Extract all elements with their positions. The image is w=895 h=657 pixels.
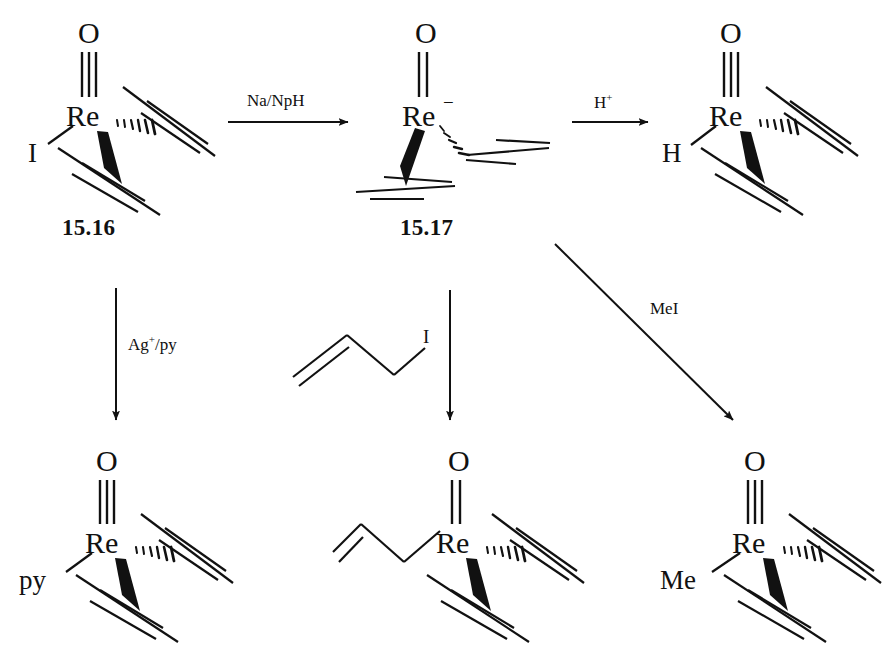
oxo-bond-methyl xyxy=(748,480,762,524)
hashed-wedge-allyl xyxy=(487,547,525,561)
silver-base: Ag xyxy=(128,335,149,354)
hashed-wedge-pyridine xyxy=(136,547,174,561)
compound-15-16-structure xyxy=(48,52,215,215)
alkyne-ligand-upper-pyridine xyxy=(141,514,233,583)
compound-pyridine-structure xyxy=(66,480,233,642)
alkyne-ligand-upper-15-16 xyxy=(123,87,215,156)
allyl-chain-bonds xyxy=(333,524,440,562)
oxo-label-15-17: O xyxy=(415,18,437,48)
arrow-methylation-line xyxy=(555,244,733,420)
metal-label-methyl: Re xyxy=(732,528,765,558)
iodide-label-15-16: I xyxy=(28,140,37,167)
compound-15-17-structure xyxy=(356,52,550,199)
reagent-label-methylation: MeI xyxy=(650,300,678,317)
methyl-label: Me xyxy=(660,567,696,594)
oxo-bond-pyridine xyxy=(100,480,114,524)
metal-label-15-16: Re xyxy=(66,101,99,131)
alkyne-ligand-upper-methyl xyxy=(789,514,881,583)
alkyne-ligand-upper-allyl xyxy=(492,514,584,583)
allyl-iodide-label: I xyxy=(423,327,429,346)
metal-label-pyridine: Re xyxy=(85,528,118,558)
anion-charge-15-17: − xyxy=(443,93,454,112)
compound-id-15-17: 15.17 xyxy=(400,216,453,239)
oxo-label-pyridine: O xyxy=(96,446,118,476)
metal-label-hydride: Re xyxy=(709,101,742,131)
hashed-wedge-15-17 xyxy=(440,126,469,155)
oxo-bond-hydride xyxy=(724,52,738,97)
hashed-wedge-15-16 xyxy=(117,120,155,134)
compound-methyl-structure xyxy=(712,480,881,642)
metal-label-allyl: Re xyxy=(436,528,469,558)
oxo-label-methyl: O xyxy=(744,446,766,476)
reagent-label-protonation: H+ xyxy=(594,92,613,111)
alkyne-ligand-right-15-17 xyxy=(466,140,550,164)
metal-label-15-17: Re xyxy=(402,101,435,131)
oxo-label-15-16: O xyxy=(78,18,100,48)
hydride-label: H xyxy=(662,140,682,167)
hashed-wedge-methyl xyxy=(784,547,822,561)
reagent-label-reduction: Na/NpH xyxy=(247,92,305,109)
oxo-label-allyl: O xyxy=(448,446,470,476)
solid-wedge-15-17 xyxy=(400,128,425,186)
hashed-wedge-hydride xyxy=(760,120,798,134)
protonation-superscript: + xyxy=(606,91,612,103)
silver-rest: /py xyxy=(155,335,177,354)
compound-id-15-16: 15.16 xyxy=(62,216,115,239)
compound-hydride-structure xyxy=(691,52,858,215)
oxo-bond-15-16 xyxy=(82,52,96,97)
pyridine-label: py xyxy=(19,567,46,594)
allyl-iodide-reagent-structure xyxy=(293,335,425,386)
protonation-base: H xyxy=(594,93,606,112)
oxo-label-hydride: O xyxy=(720,18,742,48)
alkyne-ligand-upper-hydride xyxy=(766,87,858,156)
reagent-label-silver-pyridine: Ag+/py xyxy=(128,334,177,353)
compound-allyl-structure xyxy=(333,480,584,642)
oxo-bond-allyl xyxy=(452,480,460,524)
oxo-bond-15-17 xyxy=(419,52,427,97)
